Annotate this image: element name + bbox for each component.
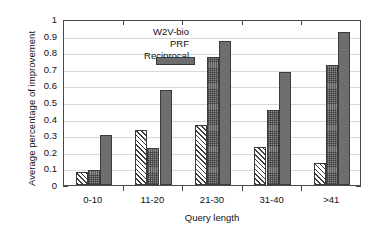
bar-reciprocal-41 xyxy=(338,32,350,185)
bar-w2v-bio-1120 xyxy=(135,130,147,185)
legend-item: PRF xyxy=(83,38,195,49)
x-axis-tick-label: 21-30 xyxy=(182,194,242,205)
y-axis-tick-label: 0.5 xyxy=(17,98,57,108)
bar-reciprocal-2130 xyxy=(219,41,231,185)
y-axis-tick-label: 0 xyxy=(17,181,57,191)
y-axis-title: Average percentage of improvement xyxy=(26,14,37,204)
bar-reciprocal-3140 xyxy=(279,72,291,185)
bar-w2v-bio-2130 xyxy=(195,125,207,185)
x-axis-tick-mark xyxy=(242,20,243,25)
x-axis-tick-mark xyxy=(301,186,302,191)
y-axis-tick-label: 0.7 xyxy=(17,65,57,75)
bar-chart: Average percentage of improvement 00.10.… xyxy=(0,0,382,236)
bar-prf-41 xyxy=(326,65,338,185)
y-axis-tick-label: 0.6 xyxy=(17,81,57,91)
bar-prf-1120 xyxy=(147,148,159,185)
x-axis-tick-mark xyxy=(301,20,302,25)
bar-w2v-bio-010 xyxy=(76,172,88,185)
bar-w2v-bio-3140 xyxy=(254,147,266,185)
bar-prf-2130 xyxy=(207,57,219,185)
y-axis-tick-label: 1 xyxy=(17,15,57,25)
x-axis-tick-label: >41 xyxy=(301,194,361,205)
legend-label: W2V-bio xyxy=(153,27,189,37)
x-axis-tick-label: 31-40 xyxy=(242,194,302,205)
x-axis-tick-mark xyxy=(182,186,183,191)
y-axis-tick-label: 0.3 xyxy=(17,131,57,141)
y-axis-tick-label: 0.8 xyxy=(17,48,57,58)
x-axis-tick-mark xyxy=(242,186,243,191)
legend-item: Reciprocal xyxy=(83,50,195,61)
y-axis-tick-label: 0.2 xyxy=(17,148,57,158)
y-axis-tick-label: 0.1 xyxy=(17,164,57,174)
y-axis-tick-mark xyxy=(63,186,68,187)
y-axis-tick-mark xyxy=(356,186,361,187)
bar-reciprocal-1120 xyxy=(160,90,172,185)
x-axis-tick-label: 11-20 xyxy=(122,194,182,205)
legend-label: PRF xyxy=(170,39,189,49)
legend-item: W2V-bio xyxy=(83,26,195,37)
legend: W2V-bio PRF Reciprocal xyxy=(80,24,198,65)
x-axis-tick-mark xyxy=(123,186,124,191)
bar-reciprocal-010 xyxy=(100,135,112,185)
y-axis-tick-label: 0.9 xyxy=(17,32,57,42)
x-axis-title: Query length xyxy=(63,212,361,223)
bar-prf-3140 xyxy=(267,110,279,185)
bar-prf-010 xyxy=(88,170,100,185)
y-axis-tick-label: 0.4 xyxy=(17,115,57,125)
legend-swatch-reciprocal xyxy=(156,57,195,65)
x-axis-tick-label: 0-10 xyxy=(63,194,123,205)
bar-w2v-bio-41 xyxy=(314,163,326,185)
